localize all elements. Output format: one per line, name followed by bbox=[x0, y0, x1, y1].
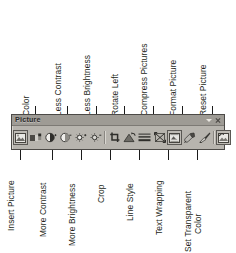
more-brightness-icon bbox=[75, 132, 87, 143]
toolbar-button-more-brightness[interactable] bbox=[73, 129, 88, 146]
toolbar-button-format-picture[interactable] bbox=[182, 129, 197, 146]
callout-label-insert-picture: Insert Picture bbox=[7, 180, 16, 231]
callout-label-line-style: Line Style bbox=[126, 183, 135, 221]
leader-line-text-wrapping bbox=[168, 150, 169, 160]
toolbar-button-row bbox=[12, 126, 224, 149]
less-brightness-icon bbox=[90, 132, 102, 143]
picture-toolbar[interactable]: Picture bbox=[11, 114, 225, 150]
callout-label-compress-pictures: Compress Pictures bbox=[140, 44, 149, 116]
callout-label-less-brightness: Less Brightness bbox=[83, 55, 92, 116]
leader-line-more-contrast bbox=[52, 150, 53, 160]
format-picture-icon bbox=[183, 132, 196, 143]
toolbar-button-rotate-left[interactable] bbox=[122, 129, 137, 146]
callout-label-reset-picture: Reset Picture bbox=[199, 64, 208, 116]
compress-pictures-icon bbox=[154, 132, 166, 143]
toolbar-button-compress-pictures[interactable] bbox=[152, 129, 167, 146]
toolbar-button-less-brightness[interactable] bbox=[88, 129, 103, 146]
chevron-down-icon[interactable] bbox=[206, 119, 212, 122]
callout-label-more-contrast: More Contrast bbox=[39, 183, 48, 237]
toolbar-button-reset-picture[interactable] bbox=[216, 130, 231, 145]
toolbar-button-crop[interactable] bbox=[107, 129, 122, 146]
callout-label-text-wrapping: Text Wrapping bbox=[155, 180, 164, 235]
callout-label-rotate-left: Rotate Left bbox=[111, 74, 120, 116]
callout-label-set-transparent-color-line1: Set Transparent bbox=[184, 191, 193, 252]
leader-line-set-transparent-color bbox=[197, 150, 198, 160]
toolbar-button-text-wrapping[interactable] bbox=[167, 130, 182, 145]
rotate-left-icon bbox=[123, 132, 136, 143]
insert-picture-icon bbox=[15, 133, 26, 143]
leader-line-crop bbox=[110, 150, 111, 160]
line-style-icon bbox=[138, 132, 151, 143]
less-contrast-icon bbox=[60, 132, 72, 143]
more-contrast-icon bbox=[45, 132, 57, 143]
toolbar-button-line-style[interactable] bbox=[137, 129, 152, 146]
leader-line-line-style bbox=[139, 150, 140, 160]
toolbar-button-less-contrast[interactable] bbox=[58, 129, 73, 146]
leader-line-insert-picture bbox=[20, 150, 21, 160]
leader-line-more-brightness bbox=[81, 150, 82, 160]
toolbar-button-more-contrast[interactable] bbox=[43, 129, 58, 146]
callout-label-crop: Crop bbox=[97, 184, 106, 203]
callout-label-more-brightness: More Brightness bbox=[68, 184, 77, 246]
toolbar-button-color[interactable] bbox=[28, 129, 43, 146]
toolbar-button-insert-picture[interactable] bbox=[13, 130, 28, 145]
toolbar-button-set-transparent-color[interactable] bbox=[197, 129, 212, 146]
reset-picture-icon bbox=[218, 133, 229, 143]
toolbar-titlebar[interactable]: Picture bbox=[12, 115, 224, 126]
set-transparent-color-icon bbox=[199, 132, 211, 143]
color-icon bbox=[30, 133, 42, 143]
text-wrapping-icon bbox=[169, 133, 180, 143]
callout-label-format-picture: Format Picture bbox=[169, 60, 178, 116]
diagram-canvas: Color Less Contrast Less Brightness Rota… bbox=[0, 0, 236, 253]
toolbar-title: Picture bbox=[15, 116, 41, 124]
callout-label-color: Color bbox=[22, 95, 31, 116]
crop-icon bbox=[109, 132, 121, 143]
callout-label-less-contrast: Less Contrast bbox=[54, 63, 63, 116]
close-icon[interactable] bbox=[215, 117, 221, 124]
callout-label-set-transparent-color-line2: Color bbox=[194, 213, 203, 234]
